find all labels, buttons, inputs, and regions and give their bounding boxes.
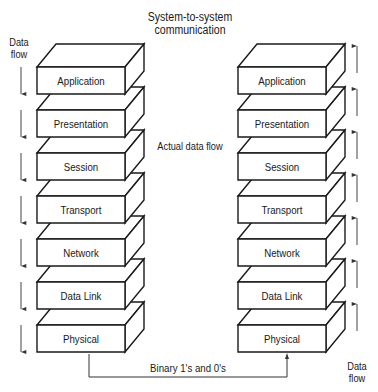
right-layer-label: Physical [243,333,320,345]
right-layer-label: Session [243,161,320,173]
right-layer-label: Application [243,75,320,87]
left-osi-stack [37,44,144,352]
left-layer-label: Physical [42,333,119,345]
connector-arrowhead-icon [285,353,289,359]
right-data-flow-label: Data flow [342,360,372,384]
right-flow-line-1: Data [342,360,372,372]
right-layer-label: Transport [243,204,320,216]
title-line-2: communication [135,24,244,37]
left-layer-label: Data Link [42,290,119,302]
actual-data-flow-label: Actual data flow [150,140,229,152]
right-osi-stack [238,44,345,352]
right-flow-line-2: flow [342,372,372,384]
left-layer-label: Network [42,247,119,259]
right-layer-label: Data Link [243,290,320,302]
left-flow-line-1: Data [6,36,32,48]
left-flow-line-2: flow [6,48,32,60]
binary-connector-label: Binary 1's and 0's [140,362,237,374]
right-layer-label: Network [243,247,320,259]
left-data-flow-label: Data flow [6,36,32,60]
left-layer-label: Transport [42,204,119,216]
diagram-title: System-to-system communication [135,11,244,37]
left-layer-label: Presentation [42,118,119,130]
left-layer-label: Application [42,75,119,87]
left-layer-label: Session [42,161,119,173]
right-layer-label: Presentation [243,118,320,130]
